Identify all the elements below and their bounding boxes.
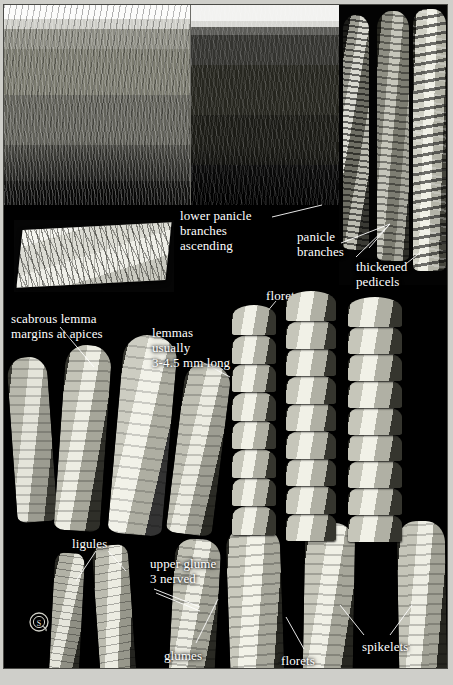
lemma-specimen-2 xyxy=(54,344,113,533)
photo-pressed-specimen-bundle xyxy=(14,220,174,292)
floret-scale xyxy=(232,448,276,478)
floret-scale xyxy=(286,484,336,514)
floret-scale xyxy=(286,319,336,349)
panicle-specimen-3 xyxy=(413,9,446,271)
copyright-stamp-logo: S xyxy=(28,611,50,633)
lemma-specimen-4 xyxy=(166,361,233,537)
label-panicle-branches: panicle branches xyxy=(297,229,344,259)
spikelet-column-2 xyxy=(286,291,336,541)
svg-text:S: S xyxy=(37,619,41,628)
label-thickened-pedicels: thickened pedicels xyxy=(356,259,407,289)
floret-scale xyxy=(232,476,276,506)
spikelet-column-3 xyxy=(348,297,402,542)
floret-scale xyxy=(232,505,276,535)
floret-scale xyxy=(348,458,402,488)
photo-panicle-specimens xyxy=(339,5,448,285)
floret-scale xyxy=(286,374,336,404)
floret-scale xyxy=(286,429,336,459)
label-florets-lower: florets xyxy=(281,653,315,668)
floret-scale xyxy=(348,512,402,542)
floret-scale xyxy=(348,297,402,327)
panicle-specimen-1 xyxy=(343,15,369,250)
floret-scale xyxy=(232,419,276,449)
ligule-specimen-1 xyxy=(49,552,85,669)
label-scabrous-lemma-margins: scabrous lemma margins at apices xyxy=(11,311,103,341)
floret-scale xyxy=(232,391,276,421)
leader-lower-panicle xyxy=(272,205,322,217)
spikelet-column-1 xyxy=(232,305,276,535)
floret-specimen xyxy=(225,526,284,669)
floret-scale xyxy=(348,431,402,461)
label-ligules: ligules xyxy=(72,536,107,551)
floret-scale xyxy=(286,511,336,541)
label-glumes: glumes xyxy=(164,648,202,663)
botanical-plate: lower panicle branches ascendingpanicle … xyxy=(0,0,453,685)
leader-florets-lower xyxy=(286,617,304,649)
plate-frame: lower panicle branches ascendingpanicle … xyxy=(3,4,448,669)
floret-scale xyxy=(286,346,336,376)
floret-scale xyxy=(348,378,402,408)
floret-scale xyxy=(232,362,276,392)
floret-scale xyxy=(232,305,276,335)
floret-scale xyxy=(348,485,402,515)
floret-scale xyxy=(286,291,336,321)
spikelet-specimen-1 xyxy=(303,523,356,669)
label-spikelets: spikelets xyxy=(362,639,408,654)
label-lower-panicle-branches-ascending: lower panicle branches ascending xyxy=(180,208,252,253)
lemma-specimen-1 xyxy=(6,356,57,523)
floret-scale xyxy=(286,456,336,486)
floret-scale xyxy=(232,334,276,364)
herbarium-sheet xyxy=(16,222,171,288)
label-lemmas-length: lemmas usually 3-4.5 mm long xyxy=(152,325,230,370)
floret-scale xyxy=(348,351,402,381)
ligule-specimen-2 xyxy=(92,544,137,669)
floret-scale xyxy=(348,405,402,435)
floret-scale xyxy=(348,324,402,354)
floret-scale xyxy=(286,401,336,431)
photo-grassland-habitat-closeup xyxy=(4,5,191,205)
panicle-specimen-2 xyxy=(377,11,409,261)
label-upper-glume-3-nerved: upper glume 3 nerved xyxy=(150,556,216,586)
